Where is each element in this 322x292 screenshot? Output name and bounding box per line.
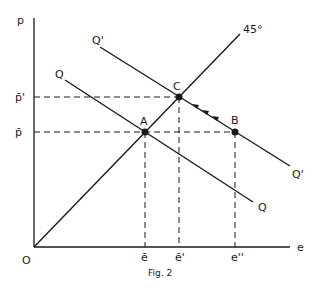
figure-caption: Fig. 2 <box>148 268 172 278</box>
q-line-end-label: Q <box>258 201 267 214</box>
point-a-marker <box>142 129 149 136</box>
q-line-start-label: Q <box>55 68 64 81</box>
guide-lines <box>34 97 235 247</box>
diagonal-45-line <box>34 34 240 247</box>
x-axis-label: e <box>297 241 304 254</box>
p-bar-label: p̄ <box>15 126 22 139</box>
e-bar-prime-label: ē' <box>175 251 185 264</box>
p-bar-prime-label: p̄' <box>15 91 25 104</box>
e-bar-label: ē <box>141 251 148 264</box>
point-c-marker <box>176 94 183 101</box>
point-a-label: A <box>140 115 148 128</box>
q-prime-line-end-label: Q' <box>292 168 304 181</box>
adjustment-arrows <box>192 104 219 121</box>
diagram-figure: p e O p̄' p̄ ē ē' e'' 45° Q Q Q' Q' A C … <box>0 0 322 292</box>
axes <box>34 18 290 247</box>
y-axis-label: p <box>17 14 24 27</box>
q-line <box>65 80 253 202</box>
point-b-label: B <box>231 114 239 127</box>
point-b-marker <box>232 129 239 136</box>
origin-label: O <box>22 254 31 267</box>
e-double-prime-label: e'' <box>231 251 244 264</box>
diagonal-45-label: 45° <box>243 23 263 36</box>
q-prime-line-start-label: Q' <box>92 34 104 47</box>
point-c-label: C <box>173 80 181 93</box>
